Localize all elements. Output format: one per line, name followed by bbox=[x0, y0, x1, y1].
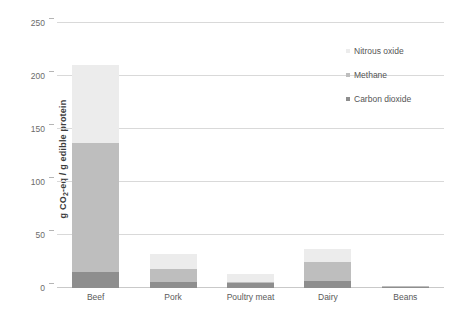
legend-swatch-icon bbox=[346, 97, 350, 101]
bar-segment-nitrous-oxide[interactable] bbox=[304, 249, 351, 262]
y-axis-tick-label: 250 bbox=[31, 18, 45, 28]
bar-segment-carbon-dioxide[interactable] bbox=[72, 272, 119, 288]
legend-item[interactable]: Nitrous oxide bbox=[346, 46, 411, 56]
bar-segment-methane[interactable] bbox=[72, 143, 119, 272]
y-axis-tick-label: 100 bbox=[31, 177, 45, 187]
y-axis-tick-label: 0 bbox=[40, 283, 45, 293]
legend-item[interactable]: Carbon dioxide bbox=[346, 94, 411, 104]
bar-segment-nitrous-oxide[interactable] bbox=[227, 274, 274, 281]
y-axis-tick-mark bbox=[49, 124, 54, 125]
legend-swatch-icon bbox=[346, 49, 350, 53]
y-axis-tick-mark bbox=[49, 230, 54, 231]
y-axis-tick: 0 bbox=[0, 283, 45, 293]
y-axis-tick-mark bbox=[49, 18, 54, 19]
x-axis-label: Beef bbox=[57, 292, 134, 302]
bar-segment-carbon-dioxide[interactable] bbox=[150, 282, 197, 288]
bar-slot[interactable] bbox=[57, 23, 134, 288]
y-axis-tick: 250 bbox=[0, 18, 45, 28]
y-axis-tick-mark bbox=[49, 283, 54, 284]
bar-segment-carbon-dioxide[interactable] bbox=[304, 281, 351, 288]
y-axis-tick: 50 bbox=[0, 230, 45, 240]
y-axis-tick: 150 bbox=[0, 124, 45, 134]
x-axis-label: Poultry meat bbox=[212, 292, 289, 302]
stacked-bar[interactable] bbox=[382, 286, 429, 288]
stacked-bar[interactable] bbox=[227, 274, 274, 288]
legend: Nitrous oxideMethaneCarbon dioxide bbox=[346, 46, 411, 104]
stacked-bar[interactable] bbox=[304, 249, 351, 288]
legend-label: Nitrous oxide bbox=[354, 46, 404, 56]
y-axis-tick-label: 200 bbox=[31, 71, 45, 81]
y-axis-tick-label: 150 bbox=[31, 124, 45, 134]
y-axis-tick: 200 bbox=[0, 71, 45, 81]
y-axis-tick-label: 50 bbox=[36, 230, 45, 240]
legend-swatch-icon bbox=[346, 73, 350, 77]
bar-segment-methane[interactable] bbox=[150, 269, 197, 282]
bar-segment-nitrous-oxide[interactable] bbox=[150, 254, 197, 269]
chart-container: g CO2-eq / g edible protein 050100150200… bbox=[0, 0, 460, 318]
y-axis-tick: 100 bbox=[0, 177, 45, 187]
stacked-bar[interactable] bbox=[72, 65, 119, 288]
x-axis-labels: BeefPorkPoultry meatDairyBeans bbox=[57, 292, 444, 302]
x-axis-label: Dairy bbox=[289, 292, 366, 302]
legend-item[interactable]: Methane bbox=[346, 70, 411, 80]
y-axis-tick-mark bbox=[49, 177, 54, 178]
y-axis-tick-mark bbox=[49, 71, 54, 72]
legend-label: Methane bbox=[354, 70, 387, 80]
x-axis-label: Beans bbox=[367, 292, 444, 302]
bar-slot[interactable] bbox=[134, 23, 211, 288]
bar-segment-carbon-dioxide[interactable] bbox=[227, 283, 274, 288]
bar-segment-carbon-dioxide[interactable] bbox=[382, 287, 429, 288]
legend-label: Carbon dioxide bbox=[354, 94, 411, 104]
bar-slot[interactable] bbox=[212, 23, 289, 288]
bar-segment-nitrous-oxide[interactable] bbox=[72, 65, 119, 142]
stacked-bar[interactable] bbox=[150, 254, 197, 288]
bar-segment-methane[interactable] bbox=[304, 262, 351, 281]
x-axis-label: Pork bbox=[134, 292, 211, 302]
